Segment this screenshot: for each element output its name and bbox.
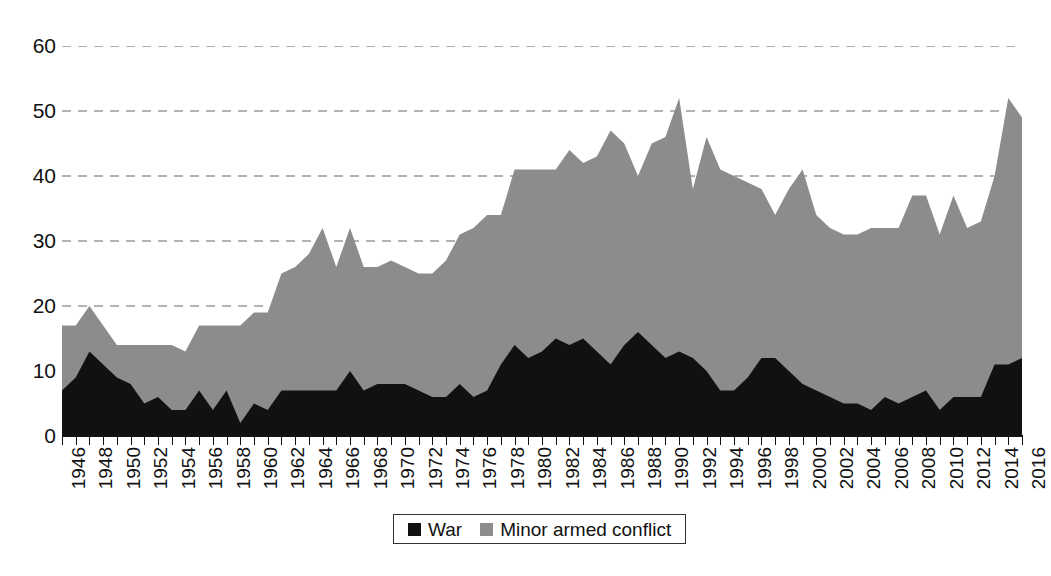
x-tick-1962 [281,437,282,445]
x-tick-1955 [185,437,186,445]
x-tick-1975 [460,437,461,445]
x-tick-label-2014: 2014 [1002,447,1021,489]
x-tick-2015 [1008,437,1009,445]
y-tick-label-0: 0 [12,425,56,446]
x-axis-labels: 1946194819501952195419561958196019621964… [62,447,1023,507]
x-tick-1948 [89,437,90,445]
x-tick-label-1976: 1976 [480,447,499,489]
x-tick-1991 [679,437,680,445]
chart-canvas [62,46,1022,436]
x-tick-2000 [803,437,804,445]
x-tick-label-2010: 2010 [947,447,966,489]
x-tick-1946 [62,437,63,445]
x-tick-1972 [419,437,420,445]
x-tick-2012 [967,437,968,445]
x-tick-2016 [1022,437,1023,445]
x-tick-1958 [227,437,228,445]
armed-conflict-area-chart: 6050403020100 19461948195019521954195619… [0,0,1051,576]
x-tick-1952 [144,437,145,445]
y-tick-label-10: 10 [12,360,56,381]
x-tick-1960 [254,437,255,445]
x-tick-label-1948: 1948 [96,447,115,489]
x-tick-2011 [953,437,954,445]
x-tick-1982 [556,437,557,445]
x-tick-1992 [693,437,694,445]
x-tick-1954 [172,437,173,445]
x-tick-2014 [995,437,996,445]
x-tick-2003 [844,437,845,445]
x-tick-label-2008: 2008 [919,447,938,489]
x-tick-1979 [515,437,516,445]
x-tick-1994 [720,437,721,445]
x-tick-1961 [268,437,269,445]
x-tick-2001 [816,437,817,445]
y-axis: 6050403020100 [8,0,56,576]
x-tick-1968 [364,437,365,445]
x-tick-1990 [665,437,666,445]
x-tick-label-1956: 1956 [206,447,225,489]
x-tick-2005 [871,437,872,445]
x-tick-label-1986: 1986 [618,447,637,489]
x-tick-1963 [295,437,296,445]
x-tick-1998 [775,437,776,445]
x-tick-2010 [940,437,941,445]
x-tick-1965 [323,437,324,445]
y-tick-label-60: 60 [12,35,56,56]
x-tick-1999 [789,437,790,445]
x-tick-2008 [912,437,913,445]
x-tick-1984 [583,437,584,445]
legend-swatch-minor-armed-conflict [480,523,493,536]
x-axis-ticks [62,437,1023,445]
x-tick-1951 [131,437,132,445]
x-tick-2002 [830,437,831,445]
x-tick-1970 [391,437,392,445]
x-tick-label-1992: 1992 [700,447,719,489]
x-tick-label-1952: 1952 [151,447,170,489]
x-tick-1995 [734,437,735,445]
x-tick-label-1974: 1974 [453,447,472,489]
x-tick-1983 [569,437,570,445]
x-tick-1956 [199,437,200,445]
x-tick-1973 [432,437,433,445]
x-tick-1988 [638,437,639,445]
x-tick-2013 [981,437,982,445]
x-tick-label-1964: 1964 [316,447,335,489]
x-tick-1947 [76,437,77,445]
legend-label: War [428,520,462,539]
x-tick-label-1966: 1966 [343,447,362,489]
legend-entry-war: War [408,520,462,539]
x-tick-1959 [240,437,241,445]
x-tick-label-2002: 2002 [837,447,856,489]
x-tick-2009 [926,437,927,445]
x-tick-1980 [528,437,529,445]
x-tick-1957 [213,437,214,445]
x-tick-1997 [761,437,762,445]
x-tick-label-1968: 1968 [371,447,390,489]
x-tick-label-1998: 1998 [782,447,801,489]
x-tick-1978 [501,437,502,445]
x-tick-1969 [377,437,378,445]
x-tick-label-1988: 1988 [645,447,664,489]
x-tick-label-1970: 1970 [398,447,417,489]
x-tick-label-1980: 1980 [535,447,554,489]
x-tick-label-2012: 2012 [974,447,993,489]
x-tick-2007 [899,437,900,445]
x-tick-label-1978: 1978 [508,447,527,489]
legend-label: Minor armed conflict [500,520,671,539]
x-tick-1993 [707,437,708,445]
x-tick-1976 [473,437,474,445]
x-tick-label-1960: 1960 [261,447,280,489]
x-tick-1964 [309,437,310,445]
x-tick-label-2016: 2016 [1029,447,1048,489]
x-tick-label-2006: 2006 [892,447,911,489]
x-tick-label-1946: 1946 [69,447,88,489]
y-tick-label-40: 40 [12,165,56,186]
x-tick-label-1994: 1994 [727,447,746,489]
x-tick-label-1950: 1950 [124,447,143,489]
x-tick-1966 [336,437,337,445]
plot-area [62,46,1022,436]
x-tick-label-1954: 1954 [179,447,198,489]
x-tick-label-1972: 1972 [426,447,445,489]
x-tick-1949 [103,437,104,445]
x-tick-label-1996: 1996 [755,447,774,489]
